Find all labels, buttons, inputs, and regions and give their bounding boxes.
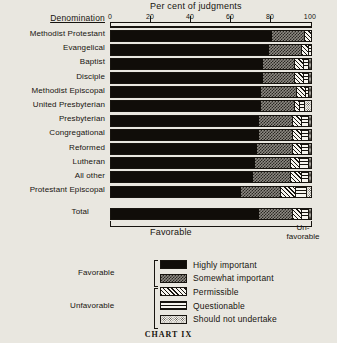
favorable-span-label: Favorable <box>150 227 192 237</box>
category-label: Disciple <box>76 72 105 81</box>
bar-segment-somewhat <box>269 45 301 55</box>
bar-segment-somewhat <box>259 116 292 126</box>
legend-item: Somewhat important <box>160 272 277 286</box>
x-axis-tickmark <box>230 16 231 23</box>
favorable-unfavorable-brace: Favorable Un- favorable <box>0 221 337 247</box>
bar-segment-highly <box>111 73 263 83</box>
bar-segment-permissible <box>290 158 299 168</box>
chart-row: Evangelical <box>0 42 337 56</box>
chart-row: Congregational <box>0 127 337 141</box>
legend-swatch-highly <box>160 260 187 269</box>
bar-segment-questionable <box>301 144 308 154</box>
bar-segment-highly <box>111 87 261 97</box>
legend-group-favorable: Favorable <box>78 268 114 277</box>
bar-segment-shouldnot <box>308 87 311 97</box>
bar-segment-permissible <box>296 87 305 97</box>
chart-row: Presbyterian <box>0 113 337 127</box>
unfavorable-group-brace <box>154 288 158 329</box>
stacked-bar <box>110 171 312 183</box>
legend-swatch-questionable <box>160 301 187 310</box>
legend: Favorable Unfavorable Highly importantSo… <box>0 258 337 330</box>
stacked-bar <box>110 86 312 98</box>
bar-segment-highly <box>111 187 241 197</box>
bar-segment-permissible <box>294 59 303 69</box>
bar-segment-somewhat <box>253 172 290 182</box>
chart-row: United Presbyterian <box>0 99 337 113</box>
chart-row: Methodist Protestant <box>0 28 337 42</box>
bar-segment-shouldnot <box>308 59 311 69</box>
stacked-bar <box>110 157 312 169</box>
bar-segment-shouldnot <box>306 187 311 197</box>
bar-segment-highly <box>111 116 259 126</box>
bar-rows: Methodist ProtestantEvangelicalBaptistDi… <box>0 28 337 220</box>
bar-segment-highly <box>111 45 269 55</box>
chart-row: Total <box>0 206 337 220</box>
bar-segment-permissible <box>292 144 301 154</box>
chart-row: Baptist <box>0 56 337 70</box>
bar-segment-permissible <box>292 209 301 219</box>
x-axis-tick-label: 0 <box>108 13 112 20</box>
x-axis-tick-label: 100 <box>304 13 316 20</box>
stacked-bar <box>110 129 312 141</box>
stacked-bar <box>110 44 312 56</box>
bar-segment-permissible <box>292 130 301 140</box>
bar-segment-somewhat <box>257 144 292 154</box>
x-axis-tickmark <box>190 16 191 23</box>
bar-segment-somewhat <box>272 31 304 41</box>
bar-segment-somewhat <box>263 73 295 83</box>
bar-segment-shouldnot <box>308 172 311 182</box>
bar-segment-highly <box>111 59 263 69</box>
chart-row: Lutheran <box>0 156 337 170</box>
bar-segment-permissible <box>280 187 295 197</box>
legend-item: Should not undertake <box>160 312 277 326</box>
bar-segment-somewhat <box>255 158 290 168</box>
legend-label: Permissible <box>193 287 239 297</box>
stacked-bar <box>110 72 312 84</box>
bar-segment-permissible <box>294 73 303 83</box>
category-label: Evangelical <box>63 43 105 52</box>
favorable-group-brace <box>154 260 158 287</box>
legend-swatch-permissible <box>160 287 187 296</box>
bar-segment-questionable <box>299 158 308 168</box>
legend-group-unfavorable: Unfavorable <box>70 301 114 310</box>
chart-row: Methodist Episcopal <box>0 85 337 99</box>
bar-segment-shouldnot <box>308 158 311 168</box>
stacked-bar <box>110 58 312 70</box>
bar-segment-questionable <box>308 45 311 55</box>
x-axis-tickmark <box>270 16 271 23</box>
bar-segment-permissible <box>301 45 308 55</box>
chart-row: Disciple <box>0 71 337 85</box>
bar-segment-highly <box>111 31 272 41</box>
chart-row: Protestant Episcopal <box>0 184 337 198</box>
bar-segment-highly <box>111 209 259 219</box>
stacked-bar <box>110 208 312 220</box>
bar-segment-permissible <box>290 172 301 182</box>
x-axis-tickmark <box>150 16 151 23</box>
legend-label: Questionable <box>193 301 245 311</box>
bar-segment-somewhat <box>241 187 280 197</box>
category-label: All other <box>75 171 105 180</box>
category-label: United Presbyterian <box>33 100 105 109</box>
bar-segment-shouldnot <box>304 101 311 111</box>
bar-segment-questionable <box>301 130 308 140</box>
bar-segment-shouldnot <box>308 130 311 140</box>
bar-segment-highly <box>111 158 255 168</box>
legend-item-list: Highly importantSomewhat importantPermis… <box>160 258 277 326</box>
stacked-bar <box>110 30 312 42</box>
bar-segment-somewhat <box>261 101 294 111</box>
category-label: Congregational <box>49 128 105 137</box>
legend-item: Questionable <box>160 299 277 313</box>
category-label: Lutheran <box>73 157 105 166</box>
bar-segment-questionable <box>295 187 306 197</box>
category-label: Methodist Protestant <box>30 29 105 38</box>
category-label: Protestant Episcopal <box>30 185 105 194</box>
bar-segment-highly <box>111 130 259 140</box>
stacked-bar <box>110 143 312 155</box>
chart-caption: CHART IX <box>0 330 337 339</box>
category-label: Presbyterian <box>59 114 105 123</box>
stacked-bar <box>110 100 312 112</box>
legend-swatch-shouldnot <box>160 315 187 324</box>
category-label: Total <box>72 207 89 216</box>
stacked-bar <box>110 115 312 127</box>
bar-segment-permissible <box>304 31 311 41</box>
